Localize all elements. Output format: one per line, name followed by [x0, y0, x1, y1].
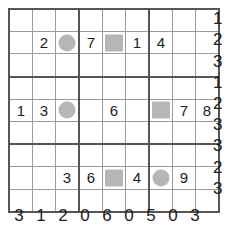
grid-cell[interactable]: [79, 121, 103, 144]
circle-marker-icon: [59, 102, 76, 119]
grid-cell[interactable]: [79, 144, 103, 167]
grid-cell[interactable]: [173, 121, 196, 144]
grid-cell[interactable]: [9, 167, 33, 189]
cell-value: 7: [180, 102, 188, 119]
square-marker-icon: [152, 102, 170, 119]
grid-cell[interactable]: [149, 144, 173, 167]
grid-cell[interactable]: [126, 144, 150, 167]
grid-row: 13678: [9, 99, 219, 121]
grid-cell[interactable]: [9, 32, 33, 54]
grid-cell[interactable]: [173, 32, 196, 54]
grid-cell[interactable]: [126, 121, 150, 144]
grid-cell[interactable]: 9: [173, 167, 196, 189]
grid-cell[interactable]: [33, 9, 56, 32]
cell-value: 7: [87, 34, 95, 51]
column-clue: 5: [140, 202, 162, 228]
grid-cell[interactable]: [9, 121, 33, 144]
grid-cell[interactable]: [33, 54, 56, 77]
grid-cell[interactable]: [126, 54, 150, 77]
column-clue: 0: [118, 202, 140, 228]
grid-cell[interactable]: [56, 9, 80, 32]
grid-cell[interactable]: [56, 144, 80, 167]
column-clue: 3: [184, 202, 206, 228]
grid-cell[interactable]: 3: [56, 167, 80, 189]
grid-cell[interactable]: [126, 9, 150, 32]
circle-marker-icon: [153, 169, 170, 186]
grid-cell[interactable]: [56, 32, 80, 54]
grid-cell[interactable]: [56, 121, 80, 144]
grid-cell[interactable]: [56, 99, 80, 121]
row-clue: 3: [210, 135, 238, 156]
grid-row: 2714: [9, 32, 219, 54]
row-clue: 3: [210, 114, 238, 135]
grid-cell[interactable]: [103, 144, 126, 167]
grid-cell[interactable]: [33, 77, 56, 100]
grid-cell[interactable]: [103, 167, 126, 189]
grid-cell[interactable]: [9, 144, 33, 167]
row-clue: 3: [210, 178, 238, 199]
column-clue-row: 312060503: [8, 202, 206, 228]
grid-cell[interactable]: [126, 77, 150, 100]
grid-cell[interactable]: [79, 99, 103, 121]
grid-cell[interactable]: [103, 121, 126, 144]
row-clue: 1: [210, 8, 238, 29]
grid-cell[interactable]: [103, 77, 126, 100]
grid-cell[interactable]: [79, 9, 103, 32]
puzzle-grid[interactable]: 2714136783649: [8, 8, 206, 199]
grid-cell[interactable]: [33, 167, 56, 189]
grid-table: 2714136783649: [8, 8, 220, 213]
grid-cell[interactable]: [149, 54, 173, 77]
row-clue: 1: [210, 72, 238, 93]
cell-value: 2: [40, 34, 48, 51]
grid-cell[interactable]: 7: [173, 99, 196, 121]
grid-cell[interactable]: [9, 77, 33, 100]
puzzle-container: 2714136783649 123123323 312060503: [0, 0, 243, 233]
grid-row: 3649: [9, 167, 219, 189]
grid-cell[interactable]: [103, 9, 126, 32]
grid-cell[interactable]: [149, 99, 173, 121]
grid-cell[interactable]: [149, 167, 173, 189]
row-clue: 2: [210, 157, 238, 178]
grid-cell[interactable]: [33, 144, 56, 167]
grid-cell[interactable]: 1: [126, 32, 150, 54]
column-clue: 6: [96, 202, 118, 228]
grid-cell[interactable]: [103, 32, 126, 54]
grid-cell[interactable]: [9, 54, 33, 77]
grid-cell[interactable]: [149, 121, 173, 144]
grid-body: 2714136783649: [9, 9, 219, 212]
grid-cell[interactable]: [173, 9, 196, 32]
cell-value: 4: [133, 169, 141, 186]
grid-cell[interactable]: [149, 9, 173, 32]
grid-cell[interactable]: 3: [33, 99, 56, 121]
grid-cell[interactable]: [79, 77, 103, 100]
grid-cell[interactable]: [56, 54, 80, 77]
cell-value: 9: [180, 169, 188, 186]
grid-cell[interactable]: 4: [126, 167, 150, 189]
grid-cell[interactable]: 2: [33, 32, 56, 54]
square-marker-icon: [105, 34, 123, 51]
row-clue: 2: [210, 93, 238, 114]
grid-row: [9, 77, 219, 100]
circle-marker-icon: [59, 34, 76, 51]
grid-cell[interactable]: 7: [79, 32, 103, 54]
grid-cell[interactable]: [56, 77, 80, 100]
grid-cell[interactable]: [173, 77, 196, 100]
grid-cell[interactable]: 6: [103, 99, 126, 121]
grid-cell[interactable]: 6: [79, 167, 103, 189]
column-clue: 2: [52, 202, 74, 228]
grid-cell[interactable]: [173, 54, 196, 77]
grid-cell[interactable]: [103, 54, 126, 77]
row-clue-column: 123123323: [210, 8, 238, 199]
cell-value: 3: [40, 102, 48, 119]
cell-value: 3: [63, 169, 71, 186]
grid-row: [9, 144, 219, 167]
grid-cell[interactable]: [33, 121, 56, 144]
cell-value: 6: [110, 102, 118, 119]
grid-cell[interactable]: [173, 144, 196, 167]
grid-cell[interactable]: 4: [149, 32, 173, 54]
grid-cell[interactable]: [149, 77, 173, 100]
grid-cell[interactable]: [9, 9, 33, 32]
grid-cell[interactable]: [79, 54, 103, 77]
grid-cell[interactable]: 1: [9, 99, 33, 121]
grid-cell[interactable]: [126, 99, 150, 121]
